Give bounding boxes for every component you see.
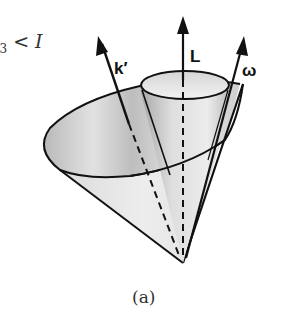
k-prime-label: k′ [114,59,128,78]
arrowhead-L-icon [177,16,189,34]
cone-diagram: I3<I k′ L ω (a) [0,0,281,314]
condition-label: I3<I [0,30,43,56]
figure-caption: (a) [132,287,155,307]
figure-canvas: I3<I k′ L ω (a) [0,0,281,314]
L-label: L [190,47,200,66]
arrowhead-omega-icon [236,36,248,56]
omega-label: ω [242,61,256,80]
